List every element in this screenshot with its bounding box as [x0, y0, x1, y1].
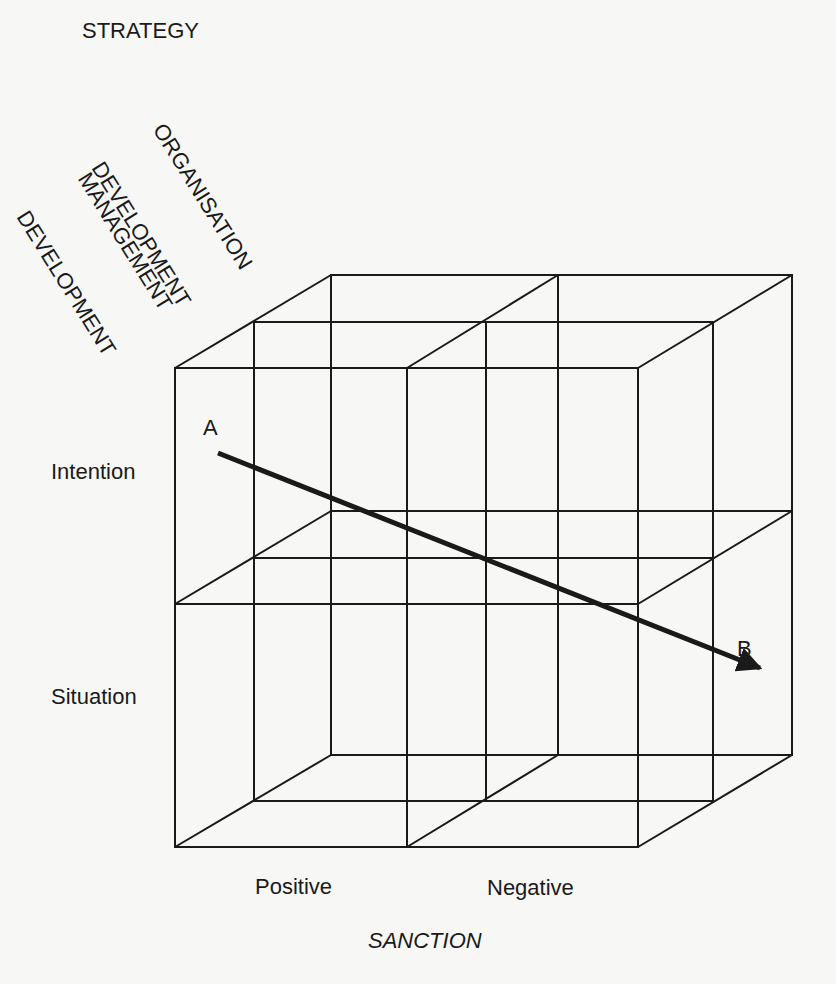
arrow-end-label: B: [737, 636, 752, 662]
row-label-intention: Intention: [51, 459, 135, 485]
sanction-axis-title: SANCTION: [368, 928, 482, 954]
a-to-b-arrow: [218, 453, 760, 668]
strategy-cube: [0, 0, 836, 984]
row-label-situation: Situation: [51, 684, 137, 710]
column-label-negative: Negative: [487, 875, 574, 901]
arrow-start-label: A: [203, 415, 218, 441]
column-label-positive: Positive: [255, 874, 332, 900]
